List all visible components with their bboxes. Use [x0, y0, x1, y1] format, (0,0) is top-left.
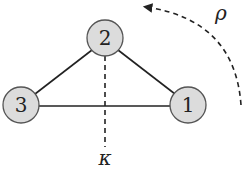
node-1: 1 — [170, 87, 206, 123]
node-3-label: 3 — [15, 93, 28, 117]
graph-diagram: 2 3 1 κ ρ — [0, 0, 242, 185]
kappa-label: κ — [97, 146, 111, 170]
rho-label: ρ — [214, 1, 227, 25]
node-2-label: 2 — [99, 26, 112, 50]
edge-2-1 — [118, 50, 175, 94]
node-2: 2 — [87, 20, 123, 56]
edge-2-3 — [35, 50, 92, 94]
node-1-label: 1 — [182, 93, 195, 117]
node-3: 3 — [3, 87, 39, 123]
